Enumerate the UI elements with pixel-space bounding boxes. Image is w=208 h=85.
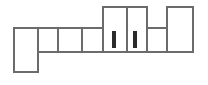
room-corridor-c <box>82 28 103 52</box>
room-corridor-b <box>58 28 82 52</box>
door-mark-right <box>133 31 137 48</box>
room-east-bay <box>147 28 167 52</box>
room-west-wing <box>14 28 38 72</box>
room-corridor-a <box>38 28 58 52</box>
room-east-tower <box>167 7 193 52</box>
floor-plan-canvas <box>0 0 208 85</box>
door-mark-left <box>112 31 116 48</box>
floor-plan-diagram <box>0 0 208 85</box>
